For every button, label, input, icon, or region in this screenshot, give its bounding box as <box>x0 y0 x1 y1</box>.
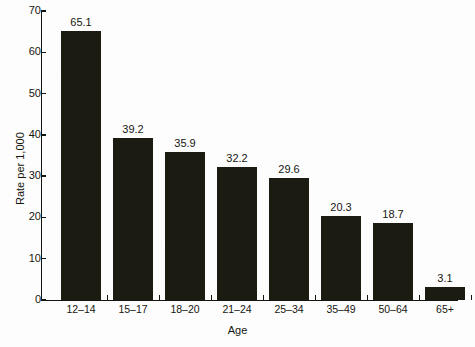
y-axis-tick-label-wrap: 0 <box>0 294 41 295</box>
y-axis-tick-label-wrap: 60 <box>0 46 41 47</box>
bar <box>61 31 101 300</box>
bar-value-label: 3.1 <box>415 273 475 284</box>
bar <box>165 152 205 300</box>
y-axis-tick <box>41 93 46 94</box>
bar-value-label: 35.9 <box>155 138 215 149</box>
y-axis-tick-label-wrap: 70 <box>0 5 41 6</box>
bar-value-label: 39.2 <box>103 124 163 135</box>
x-axis-tick <box>159 295 160 300</box>
y-axis-tick <box>41 299 46 300</box>
x-axis-tick <box>211 295 212 300</box>
y-axis-tick <box>41 10 46 11</box>
bar-chart: 010203040506070 65.139.235.932.229.620.3… <box>0 0 475 347</box>
y-axis-tick-label-wrap: 50 <box>0 88 41 89</box>
y-axis-tick <box>41 175 46 176</box>
bar <box>321 216 361 300</box>
bar <box>425 287 465 300</box>
x-axis-tick <box>315 295 316 300</box>
y-axis-tick <box>41 52 46 53</box>
y-axis-tick-label: 50 <box>13 88 41 99</box>
x-axis-tick <box>419 295 420 300</box>
bar-value-label: 65.1 <box>51 17 111 28</box>
bar <box>373 223 413 300</box>
bar-value-label: 29.6 <box>259 164 319 175</box>
x-axis-title: Age <box>0 324 475 336</box>
x-axis-tick <box>367 295 368 300</box>
x-axis-tick <box>471 295 472 300</box>
bar <box>217 167 257 300</box>
y-axis-title: Rate per 1,000 <box>14 132 26 205</box>
y-axis-tick-label: 60 <box>13 46 41 57</box>
y-axis-tick <box>41 258 46 259</box>
y-axis-tick-label-wrap: 40 <box>0 129 41 130</box>
y-axis-tick-label: 70 <box>13 5 41 16</box>
x-axis-category-label: 65+ <box>414 304 475 315</box>
y-axis-tick-label: 20 <box>13 211 41 222</box>
x-axis-tick <box>263 295 264 300</box>
y-axis-tick <box>41 134 46 135</box>
bar <box>113 138 153 300</box>
y-axis-tick-label-wrap: 10 <box>0 253 41 254</box>
x-axis-tick <box>107 295 108 300</box>
bar <box>269 178 309 300</box>
x-axis-line <box>41 300 458 301</box>
y-axis-tick-label: 0 <box>13 294 41 305</box>
bar-value-label: 20.3 <box>311 202 371 213</box>
bar-value-label: 32.2 <box>207 153 267 164</box>
y-axis-tick <box>41 217 46 218</box>
y-axis-tick-label-wrap: 20 <box>0 211 41 212</box>
bar-value-label: 18.7 <box>363 209 423 220</box>
y-axis-tick-label: 10 <box>13 253 41 264</box>
